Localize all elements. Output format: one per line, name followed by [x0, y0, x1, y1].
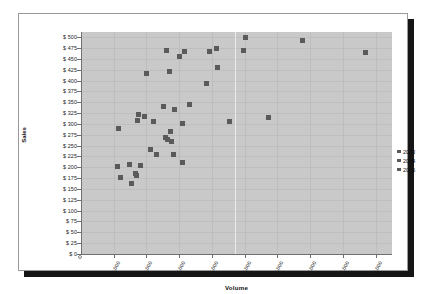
y-axis-tick-label: $ 75 [43, 218, 77, 224]
legend-label: 2005 [403, 167, 415, 173]
data-point [177, 54, 182, 59]
y-axis-tick [77, 48, 81, 49]
gridline-vertical [146, 32, 147, 254]
gridline-horizontal [81, 243, 392, 244]
legend-item[interactable]: 2004 [397, 156, 415, 165]
data-point [266, 115, 271, 120]
y-axis-tick [77, 124, 81, 125]
y-axis-tick [77, 70, 81, 71]
y-axis-tick-label: $ 425 [43, 67, 77, 73]
legend-item[interactable]: 2005 [397, 165, 415, 174]
data-point [144, 71, 149, 76]
y-axis-tick-label: $ 225 [43, 153, 77, 159]
data-point [134, 173, 139, 178]
y-axis-tick [77, 135, 81, 136]
y-axis-tick [77, 81, 81, 82]
y-axis-tick-label: $ 450 [43, 56, 77, 62]
y-axis-tick-label: $ 0 [43, 251, 77, 257]
x-axis-tick [114, 254, 115, 258]
data-point [115, 164, 120, 169]
gridline-horizontal [81, 59, 392, 60]
legend-label: 2004 [403, 158, 415, 164]
y-axis-tick [77, 189, 81, 190]
y-axis-title: Sales [21, 127, 27, 143]
x-axis-tick [343, 254, 344, 258]
y-axis-tick [77, 232, 81, 233]
legend: 200320042005 [397, 147, 415, 174]
data-point [167, 69, 172, 74]
gridline-vertical [179, 32, 180, 254]
data-point [135, 118, 140, 123]
data-point [169, 139, 174, 144]
y-axis-tick-label: $ 350 [43, 99, 77, 105]
gridline-horizontal [81, 135, 392, 136]
y-axis-tick-label: $ 200 [43, 164, 77, 170]
gridline-horizontal [81, 211, 392, 212]
y-axis-tick-label: $ 175 [43, 175, 77, 181]
gridline-vertical [212, 32, 213, 254]
legend-swatch-icon [397, 150, 401, 154]
data-point [204, 81, 209, 86]
gridline-vertical [114, 32, 115, 254]
y-axis-tick [77, 37, 81, 38]
gridline-vertical [343, 32, 344, 254]
data-point [180, 160, 185, 165]
gridline-vertical [376, 32, 377, 254]
data-point [172, 107, 177, 112]
x-axis-tick [212, 254, 213, 258]
data-point [207, 49, 212, 54]
legend-label: 2003 [403, 149, 415, 155]
data-point [243, 35, 248, 40]
y-axis-tick-label: $ 150 [43, 186, 77, 192]
data-point [241, 48, 246, 53]
y-axis-tick [77, 59, 81, 60]
y-axis-tick-label: $ 250 [43, 143, 77, 149]
data-point [129, 181, 134, 186]
y-axis-tick [77, 146, 81, 147]
data-point [154, 152, 159, 157]
x-axis-tick [376, 254, 377, 258]
data-point [161, 104, 166, 109]
x-axis-tick [277, 254, 278, 258]
y-axis-tick-label: $ 475 [43, 45, 77, 51]
y-axis-tick [77, 211, 81, 212]
y-axis-tick [77, 243, 81, 244]
y-axis-tick-label: $ 375 [43, 88, 77, 94]
gridline-horizontal [81, 91, 392, 92]
y-axis-line [81, 32, 82, 254]
y-axis-tick-label: $ 25 [43, 240, 77, 246]
gridline-horizontal [81, 102, 392, 103]
legend-item[interactable]: 2003 [397, 147, 415, 156]
y-axis-tick-label: $ 500 [43, 34, 77, 40]
data-point [164, 48, 169, 53]
y-axis-tick [77, 167, 81, 168]
y-axis-tick-label: $ 125 [43, 197, 77, 203]
y-axis-tick-labels: $ 0$ 25$ 50$ 75$ 100$ 125$ 150$ 175$ 200… [41, 14, 77, 294]
y-axis-tick-label: $ 100 [43, 208, 77, 214]
y-axis-tick [77, 91, 81, 92]
data-point [182, 49, 187, 54]
data-point [363, 50, 368, 55]
gridline-vertical [277, 32, 278, 254]
data-point [127, 162, 132, 167]
data-point [227, 119, 232, 124]
gridline-vertical [245, 32, 246, 254]
data-point [136, 112, 141, 117]
y-axis-tick-label: $ 400 [43, 78, 77, 84]
gridline-horizontal [81, 178, 392, 179]
y-axis-tick [77, 102, 81, 103]
legend-swatch-icon [397, 168, 401, 172]
gridline-horizontal [81, 221, 392, 222]
data-point [148, 147, 153, 152]
chart-card: $ 0$ 25$ 50$ 75$ 100$ 125$ 150$ 175$ 200… [18, 13, 408, 271]
data-point [138, 163, 143, 168]
plot-area [81, 32, 392, 254]
data-point [214, 46, 219, 51]
y-axis-tick [77, 156, 81, 157]
gridline-horizontal [81, 37, 392, 38]
data-point [142, 114, 147, 119]
x-axis-tick [146, 254, 147, 258]
gridline-vertical [310, 32, 311, 254]
y-axis-tick [77, 178, 81, 179]
